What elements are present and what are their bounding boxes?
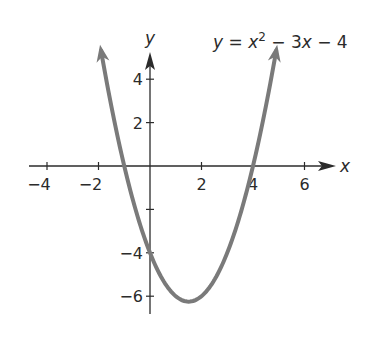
x-tick-label: 2 <box>196 175 206 194</box>
x-axis-label: x <box>339 156 351 176</box>
x-tick-label: 6 <box>299 175 309 194</box>
axes <box>29 52 336 314</box>
parabola-path <box>101 51 276 302</box>
x-tick-label: −4 <box>27 175 51 194</box>
y-tick-label: 2 <box>133 114 143 133</box>
parabola-chart: −4−224642−4−6 x y y = x2 − 3x − 4 <box>0 0 376 337</box>
y-axis-label: y <box>144 28 156 48</box>
y-tick-label: −6 <box>119 287 143 306</box>
parabola-curve <box>97 45 281 302</box>
x-tick-label: −2 <box>79 175 103 194</box>
equation-label: y = x2 − 3x − 4 <box>212 30 348 52</box>
y-tick-label: −4 <box>119 244 143 263</box>
y-tick-label: 4 <box>133 70 143 89</box>
